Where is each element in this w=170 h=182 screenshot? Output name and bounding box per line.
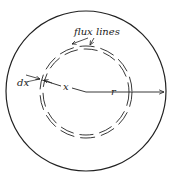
x-label: x — [63, 81, 69, 92]
flux-lines-leader-2 — [90, 38, 94, 45]
radius-x-line — [72, 88, 86, 92]
flux-lines-label: flux lines — [73, 26, 120, 37]
flux-diagram: flux lines dx x r — [0, 0, 170, 182]
dx-arrow-right — [44, 80, 52, 83]
dx-label: dx — [17, 77, 29, 88]
flux-lines-leader-1 — [72, 38, 88, 44]
r-label: r — [111, 86, 117, 97]
